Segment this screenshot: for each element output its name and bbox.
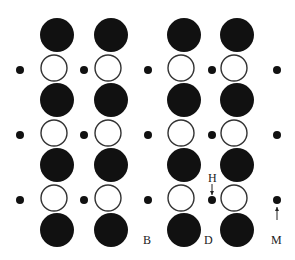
open-atom: [168, 120, 194, 146]
small-atom: [144, 131, 152, 139]
large-filled-atom: [220, 83, 254, 117]
open-atom: [41, 120, 67, 146]
atom-layer: [16, 18, 281, 247]
arrowhead-icon: [210, 191, 214, 195]
open-atom: [95, 55, 121, 81]
large-filled-atom: [40, 213, 74, 247]
open-atom: [221, 185, 247, 211]
open-atom: [95, 120, 121, 146]
large-filled-atom: [40, 18, 74, 52]
large-filled-atom: [40, 83, 74, 117]
large-filled-atom: [220, 213, 254, 247]
small-atom: [80, 66, 88, 74]
small-atom: [273, 66, 281, 74]
open-atom: [221, 55, 247, 81]
large-filled-atom: [167, 18, 201, 52]
large-filled-atom: [40, 148, 74, 182]
open-atom: [221, 120, 247, 146]
open-atom: [168, 55, 194, 81]
small-atom: [16, 196, 24, 204]
label-m: M: [271, 234, 282, 246]
small-atom: [144, 66, 152, 74]
small-atom: [273, 131, 281, 139]
large-filled-atom: [167, 83, 201, 117]
large-filled-atom: [94, 18, 128, 52]
small-atom: [16, 66, 24, 74]
open-atom: [168, 185, 194, 211]
large-filled-atom: [94, 213, 128, 247]
large-filled-atom: [94, 148, 128, 182]
open-atom: [95, 185, 121, 211]
small-atom: [273, 196, 281, 204]
small-atom: [208, 66, 216, 74]
small-atom: [144, 196, 152, 204]
label-h: H: [208, 172, 217, 184]
label-b: B: [143, 234, 151, 246]
small-atom: [80, 196, 88, 204]
large-filled-atom: [220, 18, 254, 52]
large-filled-atom: [167, 213, 201, 247]
small-atom: [208, 196, 216, 204]
open-atom: [41, 55, 67, 81]
label-d: D: [204, 234, 213, 246]
crystal-lattice-diagram: [0, 0, 295, 260]
open-atom: [41, 185, 67, 211]
small-atom: [208, 131, 216, 139]
large-filled-atom: [94, 83, 128, 117]
large-filled-atom: [167, 148, 201, 182]
arrowhead-icon: [275, 207, 279, 211]
small-atom: [80, 131, 88, 139]
large-filled-atom: [220, 148, 254, 182]
small-atom: [16, 131, 24, 139]
